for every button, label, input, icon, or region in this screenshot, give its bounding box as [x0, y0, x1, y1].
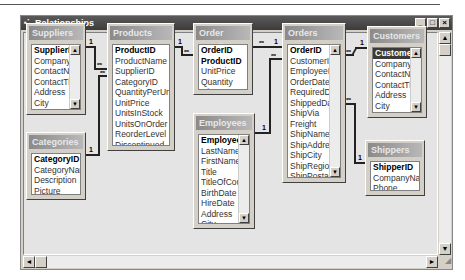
- relationship-line[interactable]: [98, 75, 107, 77]
- scroll-up-icon[interactable]: ▲: [411, 48, 421, 58]
- vertical-scrollbar[interactable]: ▲ ▼: [439, 32, 451, 255]
- relationships-window: ▪⁚ Relationships _ □ × Suppliers Supplie…: [20, 15, 453, 270]
- field-item[interactable]: Discontinued: [113, 140, 169, 147]
- scroll-down-icon[interactable]: ▼: [330, 167, 340, 177]
- horizontal-scrollbar[interactable]: ◄ ►: [23, 256, 438, 268]
- field-scrollbar[interactable]: ▲ ▼: [410, 48, 421, 112]
- field-list[interactable]: EmployeeID LastName FirstName Title Titl…: [198, 134, 250, 224]
- close-button[interactable]: ×: [439, 18, 450, 28]
- many-label: ∞: [346, 47, 351, 54]
- field-scrollbar[interactable]: ▲ ▼: [238, 135, 249, 223]
- table-orders[interactable]: Orders OrderID CustomerID EmployeeID Ord…: [282, 23, 346, 183]
- scroll-thumb[interactable]: [439, 44, 451, 56]
- table-employees[interactable]: Employees EmployeeID LastName FirstName …: [193, 113, 255, 229]
- relationship-line[interactable]: [94, 46, 96, 70]
- resize-grip-icon[interactable]: ◢: [439, 256, 451, 268]
- field-item[interactable]: UnitsInStock: [113, 108, 169, 119]
- field-scrollbar[interactable]: ▲ ▼: [329, 45, 340, 177]
- field-item[interactable]: ReorderLevel: [113, 129, 169, 140]
- field-item[interactable]: CompanyName: [371, 173, 419, 184]
- maximize-button[interactable]: □: [427, 18, 438, 28]
- relationship-line[interactable]: [253, 46, 282, 48]
- many-label: ∞: [97, 60, 102, 67]
- scroll-down-icon[interactable]: ▼: [439, 243, 451, 255]
- table-suppliers[interactable]: Suppliers SupplierID CompanyNam ContactN…: [26, 23, 86, 115]
- table-categories[interactable]: Categories CategoryID CategoryName Descr…: [26, 132, 86, 200]
- scroll-down-icon[interactable]: ▼: [70, 99, 80, 109]
- relationship-line[interactable]: [351, 48, 358, 56]
- one-label: 1: [262, 124, 266, 131]
- scroll-up-icon[interactable]: ▲: [239, 135, 249, 145]
- table-title[interactable]: Employees: [196, 116, 252, 130]
- one-label: 1: [89, 146, 93, 153]
- field-list[interactable]: SupplierID CompanyNam ContactName Contac…: [31, 44, 81, 110]
- many-label: ∞: [100, 68, 105, 75]
- one-label: 1: [178, 38, 182, 45]
- relationships-canvas[interactable]: Suppliers SupplierID CompanyNam ContactN…: [23, 32, 438, 255]
- table-title[interactable]: Products: [110, 26, 172, 40]
- relationship-line[interactable]: [354, 162, 365, 164]
- field-item[interactable]: OrderID: [199, 45, 247, 56]
- scroll-up-icon[interactable]: ▲: [330, 45, 340, 55]
- table-title[interactable]: Customers: [370, 29, 424, 43]
- field-item[interactable]: ProductName: [113, 56, 169, 67]
- top-divider: [0, 4, 440, 5]
- relationship-line[interactable]: [354, 103, 356, 164]
- field-item[interactable]: SupplierID: [113, 66, 169, 77]
- field-item[interactable]: Discount: [199, 87, 247, 90]
- table-title[interactable]: Order Details: [196, 26, 250, 40]
- field-list[interactable]: OrderID ProductID UnitPrice Quantity Dis…: [198, 44, 248, 90]
- one-label: 1: [89, 38, 93, 45]
- many-label: ∞: [184, 47, 189, 54]
- relationship-line[interactable]: [181, 54, 193, 56]
- scroll-right-icon[interactable]: ►: [426, 256, 438, 268]
- one-label: 1: [360, 39, 364, 46]
- field-item[interactable]: ProductID: [113, 45, 169, 56]
- scroll-up-icon[interactable]: ▲: [70, 45, 80, 55]
- field-list[interactable]: ProductID ProductName SupplierID Categor…: [112, 44, 170, 146]
- field-item[interactable]: CategoryName: [32, 165, 80, 176]
- many-label: ∞: [259, 38, 264, 45]
- field-item[interactable]: ProductID: [199, 56, 247, 67]
- scroll-up-icon[interactable]: ▲: [439, 32, 451, 44]
- table-title[interactable]: Categories: [29, 135, 83, 149]
- field-item[interactable]: QuantityPerUnit: [113, 87, 169, 98]
- field-item[interactable]: UnitPrice: [113, 98, 169, 109]
- relationship-line[interactable]: [98, 75, 100, 156]
- field-item[interactable]: UnitsOnOrder: [113, 119, 169, 130]
- table-order-details[interactable]: Order Details OrderID ProductID UnitPric…: [193, 23, 253, 95]
- relationship-line[interactable]: [269, 58, 282, 60]
- scroll-thumb[interactable]: [35, 256, 47, 268]
- field-item[interactable]: ShipperID: [371, 162, 419, 173]
- relationship-line[interactable]: [355, 47, 367, 49]
- scroll-down-icon[interactable]: ▼: [411, 102, 421, 112]
- field-item[interactable]: Picture: [32, 186, 80, 196]
- field-list[interactable]: CustomerID CompanyNam ContactName Contac…: [372, 47, 422, 113]
- table-products[interactable]: Products ProductID ProductName SupplierI…: [107, 23, 175, 151]
- scroll-left-icon[interactable]: ◄: [23, 256, 35, 268]
- relationship-line[interactable]: [269, 58, 271, 134]
- field-list[interactable]: OrderID CustomerID EmployeeID OrderDate …: [287, 44, 341, 178]
- table-shippers[interactable]: Shippers ShipperID CompanyName Phone: [365, 140, 425, 196]
- table-title[interactable]: Shippers: [368, 143, 422, 157]
- field-item[interactable]: UnitPrice: [199, 66, 247, 77]
- one-label: 1: [274, 38, 278, 45]
- field-item[interactable]: Description: [32, 175, 80, 186]
- field-item[interactable]: Phone: [371, 183, 419, 191]
- field-item[interactable]: CategoryID: [113, 77, 169, 88]
- many-label: ∞: [346, 95, 351, 102]
- field-item[interactable]: Quantity: [199, 77, 247, 88]
- field-list[interactable]: CategoryID CategoryName Description Pict…: [31, 153, 81, 195]
- many-label: ∞: [271, 51, 276, 58]
- table-customers[interactable]: Customers CustomerID CompanyNam ContactN…: [367, 26, 427, 118]
- field-item[interactable]: CategoryID: [32, 154, 80, 165]
- scroll-down-icon[interactable]: ▼: [239, 213, 249, 223]
- table-title[interactable]: Suppliers: [29, 26, 83, 40]
- one-label: 1: [358, 154, 362, 161]
- field-list[interactable]: ShipperID CompanyName Phone: [370, 161, 420, 191]
- table-title[interactable]: Orders: [285, 26, 343, 40]
- field-scrollbar[interactable]: ▲ ▼: [69, 45, 80, 109]
